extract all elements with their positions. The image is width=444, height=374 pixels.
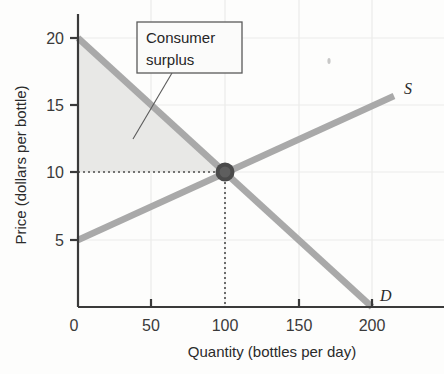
x-axis-title: Quantity (bottles per day) [188,343,356,360]
y-tick-label-15: 15 [46,97,64,114]
y-tick-label-5: 5 [55,232,64,249]
supply-curve-label: S [404,80,412,97]
x-tick-label-200: 200 [359,317,386,334]
x-tick-label-0: 0 [70,317,79,334]
x-tick-label-50: 50 [142,317,160,334]
y-axis-title: Price (dollars per bottle) [12,85,29,244]
y-tick-label-10: 10 [46,164,64,181]
equilibrium-point-inner [220,167,231,178]
y-axis-ticks [70,38,78,240]
callout-text-line2: surplus [146,51,194,68]
y-tick-label-20: 20 [46,30,64,47]
x-tick-label-150: 150 [286,317,313,334]
demand-curve-label: D [379,287,392,304]
callout-text-line1: Consumer [146,29,215,46]
scan-speck [327,58,330,64]
x-tick-label-100: 100 [212,317,239,334]
x-axis-ticks [151,299,372,307]
chart-svg: 20 15 10 5 0 50 100 150 200 Price (dolla… [0,0,444,374]
